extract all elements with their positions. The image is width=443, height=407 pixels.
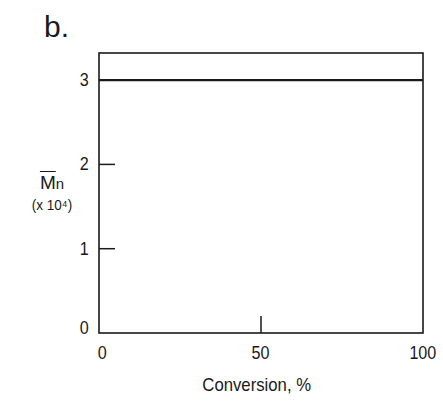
y-axis-scale-label: (x 10⁴)	[18, 196, 86, 213]
y-axis-label: Mn	[28, 172, 76, 195]
y-tick-label: 0	[80, 318, 89, 337]
axes-frame	[99, 53, 423, 333]
axis-ticks	[99, 164, 261, 333]
x-tick-label: 50	[252, 343, 270, 362]
y-tick-label: 1	[80, 239, 89, 258]
x-axis-label: Conversion, %	[27, 374, 417, 396]
y-tick-label: 2	[80, 154, 89, 173]
x-tick-label: 0	[97, 343, 106, 362]
y-tick-label: 3	[80, 70, 89, 89]
x-tick-label: 100	[409, 343, 436, 362]
